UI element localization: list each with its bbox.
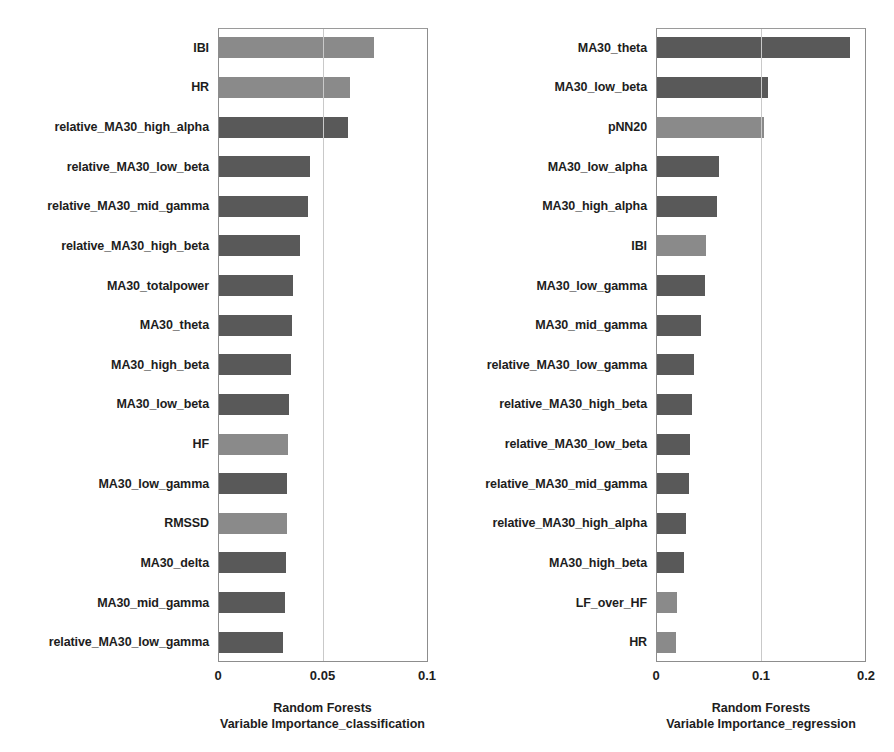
bar [656, 196, 717, 217]
category-label: MA30_theta [450, 41, 656, 55]
bar-cell [218, 424, 428, 464]
category-label: HR [10, 80, 218, 94]
bar [218, 235, 300, 256]
bar-row: MA30_low_beta [450, 68, 866, 108]
axis-title-regression: Random Forests Variable Importance_regre… [556, 700, 894, 732]
bar-row: MA30_mid_gamma [450, 305, 866, 345]
category-label: LF_over_HF [450, 596, 656, 610]
category-label: HF [10, 437, 218, 451]
bar-cell [656, 266, 866, 306]
bar-cell [218, 464, 428, 504]
bar-row: MA30_theta [10, 305, 428, 345]
bar [656, 513, 686, 534]
x-axis-regression: 00.10.2 [656, 668, 866, 690]
bar [656, 235, 706, 256]
panel-regression: MA30_thetaMA30_low_betapNN20MA30_low_alp… [447, 0, 894, 752]
category-label: RMSSD [10, 516, 218, 530]
category-label: MA30_low_alpha [450, 160, 656, 174]
category-label: MA30_low_beta [10, 397, 218, 411]
bar-row: MA30_mid_gamma [10, 583, 428, 623]
bar-cell [218, 187, 428, 227]
category-label: relative_MA30_low_gamma [450, 358, 656, 372]
x-tick-label: 0 [652, 668, 659, 683]
bar-cell [656, 147, 866, 187]
bar [656, 473, 689, 494]
bar-row: IBI [450, 226, 866, 266]
bar [656, 592, 677, 613]
bar [218, 513, 287, 534]
bar-row: relative_MA30_low_gamma [450, 345, 866, 385]
bar [218, 592, 285, 613]
bar [656, 156, 719, 177]
bar [218, 156, 310, 177]
bar [218, 37, 374, 58]
bar [656, 77, 768, 98]
bar [218, 552, 286, 573]
bar-row: relative_MA30_high_beta [10, 226, 428, 266]
chart-regression: MA30_thetaMA30_low_betapNN20MA30_low_alp… [450, 28, 866, 662]
bar [218, 315, 292, 336]
bar-cell [218, 583, 428, 623]
bar [656, 354, 694, 375]
bar-row: relative_MA30_low_beta [10, 147, 428, 187]
bar-row: MA30_high_beta [10, 345, 428, 385]
bar-row: relative_MA30_mid_gamma [10, 187, 428, 227]
bar-cell [656, 583, 866, 623]
bar-rows-regression: MA30_thetaMA30_low_betapNN20MA30_low_alp… [450, 28, 866, 662]
category-label: relative_MA30_low_beta [450, 437, 656, 451]
bar-row: HF [10, 424, 428, 464]
axis-title-line1: Random Forests [556, 700, 894, 716]
bar-cell [656, 305, 866, 345]
x-tick-label: 0.1 [418, 668, 436, 683]
category-label: MA30_low_beta [450, 80, 656, 94]
bar-row: MA30_totalpower [10, 266, 428, 306]
bar-rows-classification: IBIHRrelative_MA30_high_alpharelative_MA… [10, 28, 428, 662]
panel-classification: IBIHRrelative_MA30_high_alpharelative_MA… [0, 0, 447, 752]
category-label: relative_MA30_low_beta [10, 160, 218, 174]
bar-cell [218, 622, 428, 662]
bar [218, 117, 348, 138]
bar-cell [656, 107, 866, 147]
bar-row: MA30_theta [450, 28, 866, 68]
bar-cell [656, 187, 866, 227]
x-tick-label: 0.2 [857, 668, 875, 683]
category-label: MA30_delta [10, 556, 218, 570]
bar-row: MA30_low_gamma [450, 266, 866, 306]
x-axis-classification: 00.050.1 [218, 668, 427, 690]
category-label: MA30_theta [10, 318, 218, 332]
bar-row: MA30_low_gamma [10, 464, 428, 504]
bar-row: relative_MA30_high_alpha [450, 504, 866, 544]
bar-cell [656, 504, 866, 544]
axis-title-line2: Variable Importance_regression [556, 716, 894, 732]
x-tick-label: 0.1 [752, 668, 770, 683]
category-label: relative_MA30_high_alpha [450, 516, 656, 530]
figure-container: IBIHRrelative_MA30_high_alpharelative_MA… [0, 0, 894, 752]
bar [218, 434, 288, 455]
bar [218, 196, 308, 217]
bar [656, 434, 690, 455]
bar-cell [218, 266, 428, 306]
bar-cell [218, 385, 428, 425]
bar-row: relative_MA30_high_beta [450, 385, 866, 425]
bar-row: relative_MA30_low_gamma [10, 622, 428, 662]
bar [656, 37, 850, 58]
category-label: IBI [450, 239, 656, 253]
bar-cell [656, 464, 866, 504]
bar-cell [218, 147, 428, 187]
category-label: pNN20 [450, 120, 656, 134]
bar [218, 77, 350, 98]
bar-cell [656, 543, 866, 583]
bar-cell [656, 345, 866, 385]
category-label: MA30_mid_gamma [10, 596, 218, 610]
bar-cell [656, 622, 866, 662]
bar [218, 632, 283, 653]
bar [656, 315, 701, 336]
bar-row: MA30_low_beta [10, 385, 428, 425]
bar-cell [218, 226, 428, 266]
category-label: MA30_mid_gamma [450, 318, 656, 332]
bar-row: relative_MA30_mid_gamma [450, 464, 866, 504]
category-label: relative_MA30_low_gamma [10, 635, 218, 649]
x-tick-label: 0 [214, 668, 221, 683]
bar-row: HR [10, 68, 428, 108]
bar-row: pNN20 [450, 107, 866, 147]
